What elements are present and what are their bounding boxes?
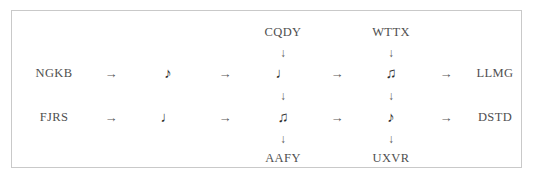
arrow-down-icon-mid-col3: ↓ — [280, 90, 286, 102]
row2-end-label-dstd: DSTD — [478, 110, 512, 125]
row1-note-1: ♪ — [164, 66, 172, 81]
row2-note-3: ♪ — [387, 110, 395, 125]
arrow-right-icon-row1-2: → — [219, 67, 232, 80]
arrow-right-icon-row1-1: → — [105, 67, 118, 80]
bottom-label-uxvr: UXVR — [372, 151, 409, 166]
row2-start-label-fjrs: FJRS — [40, 110, 69, 125]
row2-note-1: ♩ — [161, 110, 176, 125]
row1-start-label-ngkb: NGKB — [35, 66, 72, 81]
row1-note-3: ♫ — [385, 66, 396, 81]
top-label-cqdy: CQDY — [264, 25, 301, 40]
flow-grid: CQDY WTTX ↓ ↓ NGKB → ♪ → ♩ → ♫ → LLMG ↓ … — [12, 11, 521, 167]
arrow-down-icon-top-col4: ↓ — [388, 47, 394, 59]
arrow-right-icon-row1-3: → — [331, 67, 344, 80]
arrow-right-icon-row2-1: → — [105, 111, 118, 124]
arrow-down-icon-mid-col4: ↓ — [388, 90, 394, 102]
arrow-right-icon-row2-2: → — [219, 111, 232, 124]
arrow-right-icon-row1-4: → — [440, 67, 453, 80]
bottom-label-aafy: AAFY — [265, 151, 301, 166]
arrow-down-icon-top-col3: ↓ — [280, 47, 286, 59]
row1-end-label-llmg: LLMG — [476, 66, 513, 81]
arrow-down-icon-bottom-col3: ↓ — [280, 133, 286, 145]
row2-note-2: ♫ — [277, 110, 288, 125]
top-label-wttx: WTTX — [372, 25, 410, 40]
row1-note-2: ♩ — [276, 66, 291, 81]
arrow-right-icon-row2-4: → — [440, 111, 453, 124]
diagram-frame: CQDY WTTX ↓ ↓ NGKB → ♪ → ♩ → ♫ → LLMG ↓ … — [11, 10, 522, 168]
arrow-down-icon-bottom-col4: ↓ — [388, 133, 394, 145]
arrow-right-icon-row2-3: → — [331, 111, 344, 124]
